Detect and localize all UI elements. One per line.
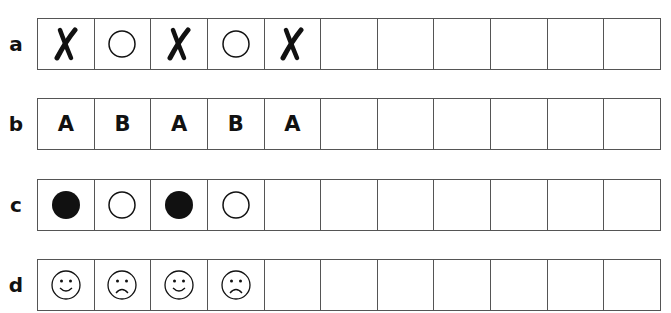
circle-outline-icon: [221, 29, 251, 59]
empty-cell[interactable]: [321, 99, 378, 149]
pattern-cell: [265, 19, 322, 69]
smiley-sad-icon: [106, 269, 138, 301]
smiley-sad-icon: [220, 269, 252, 301]
cell-letter: A: [58, 112, 74, 136]
cell-letter: B: [228, 112, 244, 136]
empty-cell[interactable]: [265, 180, 322, 230]
pattern-cell: [38, 260, 95, 310]
empty-cell[interactable]: [321, 180, 378, 230]
pattern-grid: ABABA: [37, 98, 661, 150]
pattern-cell: [151, 180, 208, 230]
pattern-grid: [37, 259, 661, 311]
pattern-cell: [95, 180, 152, 230]
empty-cell[interactable]: [265, 260, 322, 310]
empty-cell[interactable]: [321, 260, 378, 310]
empty-cell[interactable]: [434, 19, 491, 69]
pattern-row-b: bABABA: [0, 98, 671, 151]
pattern-cell: A: [265, 99, 322, 149]
circle-outline-icon: [221, 190, 251, 220]
circle-filled-icon: [164, 190, 194, 220]
empty-cell[interactable]: [548, 260, 605, 310]
empty-cell[interactable]: [491, 180, 548, 230]
pattern-cell: B: [95, 99, 152, 149]
pattern-cell: [208, 260, 265, 310]
pattern-cell: [95, 19, 152, 69]
empty-cell[interactable]: [321, 19, 378, 69]
empty-cell[interactable]: [548, 19, 605, 69]
empty-cell[interactable]: [548, 180, 605, 230]
cross-icon: [51, 27, 81, 61]
pattern-row-d: d: [0, 259, 671, 312]
cell-letter: B: [114, 112, 130, 136]
row-label: b: [6, 98, 26, 151]
pattern-grid: [37, 18, 661, 70]
empty-cell[interactable]: [434, 260, 491, 310]
circle-filled-icon: [51, 190, 81, 220]
pattern-cell: A: [38, 99, 95, 149]
row-label: d: [6, 259, 26, 312]
empty-cell[interactable]: [378, 180, 435, 230]
pattern-cell: [151, 19, 208, 69]
pattern-cell: [208, 180, 265, 230]
pattern-cell: [208, 19, 265, 69]
pattern-cell: [151, 260, 208, 310]
empty-cell[interactable]: [604, 19, 660, 69]
pattern-cell: [38, 19, 95, 69]
circle-outline-icon: [107, 29, 137, 59]
row-label: a: [6, 18, 26, 71]
empty-cell[interactable]: [491, 19, 548, 69]
empty-cell[interactable]: [378, 260, 435, 310]
empty-cell[interactable]: [434, 99, 491, 149]
pattern-row-a: a: [0, 18, 671, 71]
row-label: c: [6, 179, 26, 232]
empty-cell[interactable]: [378, 99, 435, 149]
pattern-cell: [38, 180, 95, 230]
cross-icon: [277, 27, 307, 61]
pattern-row-c: c: [0, 179, 671, 232]
smiley-happy-icon: [163, 269, 195, 301]
pattern-cell: A: [151, 99, 208, 149]
pattern-grid: [37, 179, 661, 231]
empty-cell[interactable]: [548, 99, 605, 149]
empty-cell[interactable]: [604, 180, 660, 230]
empty-cell[interactable]: [604, 99, 660, 149]
pattern-cell: B: [208, 99, 265, 149]
empty-cell[interactable]: [491, 99, 548, 149]
pattern-cell: [95, 260, 152, 310]
empty-cell[interactable]: [491, 260, 548, 310]
empty-cell[interactable]: [378, 19, 435, 69]
cell-letter: A: [171, 112, 187, 136]
smiley-happy-icon: [50, 269, 82, 301]
cell-letter: A: [284, 112, 300, 136]
cross-icon: [164, 27, 194, 61]
empty-cell[interactable]: [434, 180, 491, 230]
circle-outline-icon: [107, 190, 137, 220]
empty-cell[interactable]: [604, 260, 660, 310]
